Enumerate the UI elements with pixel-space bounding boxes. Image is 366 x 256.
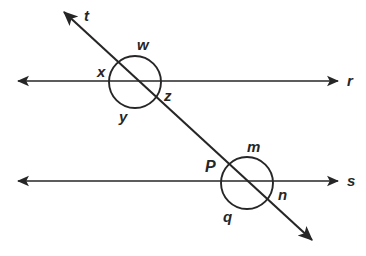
angle-label-p: P	[205, 159, 216, 175]
geometry-figure: r s t w x y z m P q n	[0, 0, 366, 256]
geometry-canvas	[0, 0, 366, 256]
angle-label-y: y	[119, 109, 127, 124]
lower-intersection-circle	[221, 157, 273, 209]
line-label-t: t	[84, 8, 89, 23]
angle-label-z: z	[164, 88, 172, 103]
line-label-s: s	[347, 173, 355, 188]
angle-label-w: w	[137, 37, 149, 52]
line-label-r: r	[347, 73, 353, 88]
upper-intersection-circle	[109, 56, 161, 108]
angle-label-x: x	[97, 64, 105, 79]
line-t-stroke	[64, 12, 312, 240]
angle-label-n: n	[278, 187, 287, 202]
angle-label-m: m	[247, 139, 260, 154]
angle-label-q: q	[223, 209, 232, 224]
